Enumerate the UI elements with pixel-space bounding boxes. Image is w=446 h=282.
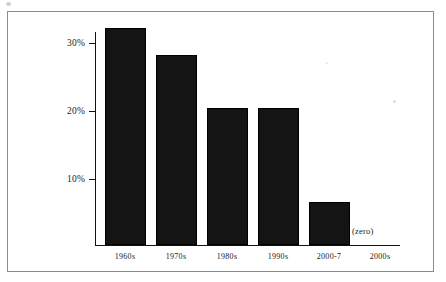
scan-speck [393,100,396,103]
bar-1990s [258,108,299,245]
y-tick-mark-10 [89,179,96,180]
y-tick-label-20: 20% [67,106,85,116]
y-tick-label-30-wrap: 30% [45,38,85,48]
scan-speck [6,2,11,6]
bar-1980s [207,108,248,245]
y-tick-label-30: 30% [67,38,85,48]
chart-plot-area: 30% 20% 10% (zero) 1960s 1970s 1980s 199… [0,0,446,282]
bar-1970s [156,55,197,245]
bar-1960s [105,28,146,245]
zero-annotation-label: (zero) [352,226,374,236]
y-tick-label-20-wrap: 20% [45,106,85,116]
x-axis-line [95,245,400,246]
y-tick-label-10-wrap: 10% [45,174,85,184]
y-tick-mark-30 [89,43,96,44]
y-tick-label-10: 10% [67,174,85,184]
y-tick-mark-20 [89,111,96,112]
bar-2000-7 [309,202,350,245]
x-category-label-2000s: 2000s [350,252,410,262]
chart-figure: 30% 20% 10% (zero) 1960s 1970s 1980s 199… [0,0,446,282]
y-axis-line [95,32,96,246]
scan-speck [326,62,328,64]
